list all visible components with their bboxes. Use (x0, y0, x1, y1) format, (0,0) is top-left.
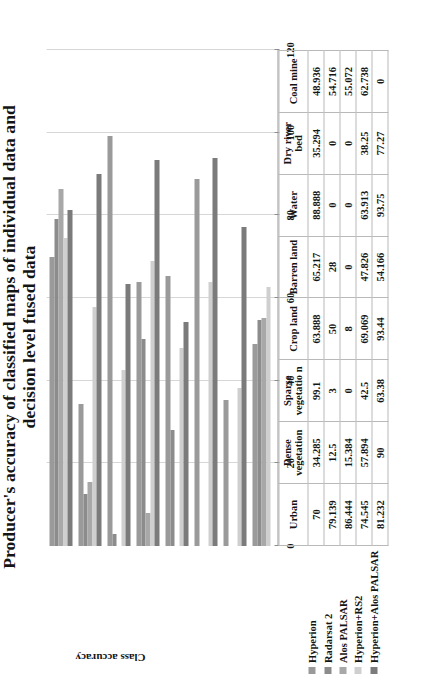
table-column-header: Dry river bed (279, 112, 308, 174)
table-cell: 54.716 (324, 51, 340, 113)
data-table: UrbanDense vegetationSparse vegetatio nC… (278, 50, 388, 546)
bar-group-barren-land (165, 50, 188, 546)
bar-hyperion-alos-palsar (67, 210, 72, 546)
bar-hyperion-alos-palsar (154, 160, 159, 546)
bar-hyperion-alos-palsar (125, 284, 130, 546)
table-column-header: Barren land (279, 236, 308, 298)
bar-alos-palsar (87, 482, 92, 546)
table-cell: 70 (308, 484, 324, 546)
table-cell: 74.545 (356, 484, 372, 546)
table-cell: 63.913 (356, 174, 372, 236)
table-cell: 48.936 (308, 51, 324, 113)
bar-hyperion (136, 282, 141, 546)
legend-swatch-icon (324, 667, 331, 674)
table-row: 7034.28599.163.88865.21788.88835.29448.9… (308, 51, 324, 546)
bar-hyperion-alos-palsar (212, 159, 217, 547)
table-row: 79.13912.5350280054.716 (324, 51, 340, 546)
table-column-header: Dense vegetation (279, 422, 308, 484)
table-cell: 62.738 (356, 51, 372, 113)
bar-hyperion-rs2 (237, 388, 242, 546)
bar-group-dense-vegetation (78, 50, 101, 546)
bar-hyperion (107, 136, 112, 546)
figure: Producer's accuracy of classified maps o… (0, 0, 441, 674)
bar-radarsat-2 (112, 534, 117, 546)
table-cell: 0 (324, 112, 340, 174)
table-column-header: Sparse vegetatio n (279, 360, 308, 422)
figure-title-line-1: Producer's accuracy of classified maps o… (0, 0, 18, 674)
bar-group-dry-river-bed (223, 50, 246, 546)
table-row: 74.54557.89442.569.06947.82663.91338.256… (356, 51, 372, 546)
bar-hyperion-rs2 (208, 282, 213, 546)
bar-group-coal-mine (252, 50, 275, 546)
chart-plot-area (46, 50, 278, 546)
table-cell: 38.25 (356, 112, 372, 174)
legend-item-label: Hyperion (306, 620, 317, 663)
table-column-header: Coal mine (279, 51, 308, 113)
bar-hyperion (252, 344, 257, 546)
table-cell: 54.166 (372, 236, 388, 298)
bar-radarsat-2 (54, 219, 59, 546)
table-cell: 93.44 (372, 298, 388, 360)
table-cell: 81.232 (372, 484, 388, 546)
bar-radarsat-2 (257, 320, 262, 546)
legend-swatch-icon (308, 667, 315, 674)
table-cell: 77.27 (372, 112, 388, 174)
bar-hyperion-rs2 (92, 307, 97, 546)
table-cell: 65.217 (308, 236, 324, 298)
table-cell: 63.38 (372, 360, 388, 422)
table-cell: 3 (324, 360, 340, 422)
legend-item-label: Hyperion+Alos PALSAR (368, 551, 379, 663)
chart-legend: HyperionRadarsat 2Alos PALSARHyperion+RS… (278, 546, 381, 674)
bar-alos-palsar (145, 513, 150, 546)
table-cell: 63.888 (308, 298, 324, 360)
table-column-header: Water (279, 174, 308, 236)
table-cell: 34.285 (308, 422, 324, 484)
figure-title-line-2: decision level fused data (18, 0, 38, 674)
table-cell: 86.444 (340, 484, 356, 546)
table-cell: 88.888 (308, 174, 324, 236)
bar-hyperion-rs2 (121, 370, 126, 546)
legend-item-hyperion[interactable]: Hyperion (304, 546, 319, 674)
table-body: 7034.28599.163.88865.21788.88835.29448.9… (308, 51, 388, 546)
rotated-figure-shell: Producer's accuracy of classified maps o… (0, 0, 441, 674)
bar-hyperion-alos-palsar (96, 174, 101, 546)
table-cell: 0 (372, 51, 388, 113)
legend-item-radarsat-2[interactable]: Radarsat 2 (319, 546, 334, 674)
legend-item-hyperion-rs2[interactable]: Hyperion+RS2 (350, 546, 365, 674)
table-row: 86.44415.3840800055.072 (340, 51, 356, 546)
bar-radarsat-2 (83, 494, 88, 546)
bar-hyperion (78, 404, 83, 546)
table-header-row: UrbanDense vegetationSparse vegetatio nC… (279, 51, 308, 546)
legend-item-label: Alos PALSAR (337, 599, 348, 663)
table-cell: 0 (340, 236, 356, 298)
legend-swatch-icon (370, 667, 377, 674)
bar-radarsat-2 (141, 339, 146, 546)
value-axis-title: Class accuracy (20, 652, 200, 664)
legend-swatch-icon (354, 667, 361, 674)
bar-hyperion (49, 257, 54, 546)
bar-alos-palsar (58, 189, 63, 546)
bar-hyperion-alos-palsar (241, 227, 246, 546)
table-row: 81.2329063.3893.4454.16693.7577.270 (372, 51, 388, 546)
table-cell: 0 (340, 360, 356, 422)
table-cell: 28 (324, 236, 340, 298)
bar-hyperion-alos-palsar (183, 322, 188, 546)
bar-hyperion-rs2 (179, 348, 184, 546)
bar-alos-palsar (261, 318, 266, 546)
table-cell: 47.826 (356, 236, 372, 298)
bar-hyperion-rs2 (150, 261, 155, 546)
table-cell: 90 (372, 422, 388, 484)
table-cell: 0 (340, 112, 356, 174)
table-cell: 42.5 (356, 360, 372, 422)
table-cell: 35.294 (308, 112, 324, 174)
legend-item-hyperion-alos-palsar[interactable]: Hyperion+Alos PALSAR (366, 546, 381, 674)
table-cell: 15.384 (340, 422, 356, 484)
legend-swatch-icon (339, 667, 346, 674)
table-cell: 8 (340, 298, 356, 360)
bar-hyperion-rs2 (266, 287, 271, 546)
bar-group-water (194, 50, 217, 546)
bar-group-urban (49, 50, 72, 546)
bar-radarsat-2 (170, 430, 175, 546)
bar-hyperion (223, 400, 228, 546)
legend-item-alos-palsar[interactable]: Alos PALSAR (335, 546, 350, 674)
